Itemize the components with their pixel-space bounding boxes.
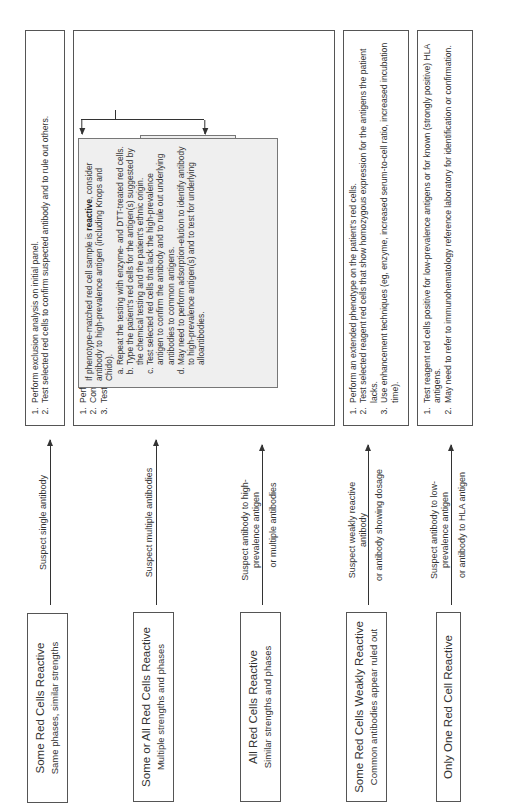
action-list: Perform exclusion analysis on initial pa… <box>30 37 51 419</box>
action-item: Test selected red cells to confirm suspe… <box>40 37 50 405</box>
branch-arrow-nonreactive <box>204 120 205 134</box>
action-box-single-antibody: Perform exclusion analysis on initial pa… <box>25 30 65 426</box>
action-item: Perform an extended phenotype on the pat… <box>78 37 88 405</box>
condition-title: Some or All Red Cells Reactive <box>139 627 154 787</box>
condition-subtitle: Multiple strengths and phases <box>154 644 168 770</box>
action-box-multiple-antibodies: Perform an extended phenotype on the pat… <box>73 30 335 426</box>
action-item: Perform exclusion analysis on initial pa… <box>30 37 40 405</box>
branch-text-pre: If phenotype-matched red cell sample is <box>146 160 176 221</box>
arrow-single-antibody <box>50 440 51 605</box>
condition-subtitle: Same phases, similar strengths <box>48 642 62 775</box>
arrow-label: Suspect single antibody <box>38 440 49 605</box>
action-list: Perform an extended phenotype on the pat… <box>78 37 109 419</box>
flowchart-rotated: Some Red Cells Reactive Same phases, sim… <box>0 0 508 810</box>
action-item: Consider dosage to explain multiple stre… <box>88 37 98 405</box>
branch-text-bold: nonreactive <box>177 174 187 221</box>
branch-arrow-reactive <box>81 120 82 134</box>
branch-box-nonreactive: If phenotype-matched red cell sample is … <box>140 135 236 228</box>
condition-box-some-reactive: Some Red Cells Reactive Same phases, sim… <box>27 613 68 803</box>
condition-box-multiple-reactive: Some or All Red Cells Reactive Multiple … <box>133 612 174 802</box>
arrow-label: Suspect multiple antibodies <box>144 440 155 605</box>
action-item: Test a reagent red cell sample that matc… <box>99 37 109 405</box>
branch-connector-vertical <box>81 119 204 120</box>
arrow-multiple-antibodies <box>156 440 157 605</box>
condition-title: Some Red Cells Reactive <box>33 642 48 773</box>
